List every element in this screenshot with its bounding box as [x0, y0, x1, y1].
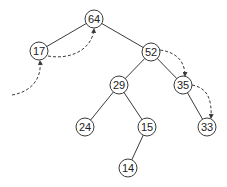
thread-arrow-entry-17 [12, 61, 40, 95]
node-52: 52 [142, 43, 160, 61]
thread-arrow-35-33 [192, 85, 211, 118]
node-label: 64 [88, 13, 100, 25]
node-label: 35 [177, 79, 189, 91]
node-17: 17 [30, 42, 48, 60]
node-24: 24 [76, 118, 94, 136]
node-64: 64 [85, 10, 103, 28]
node-14: 14 [119, 159, 137, 177]
node-33: 33 [198, 118, 216, 136]
node-label: 24 [79, 121, 91, 133]
node-15: 15 [138, 118, 156, 136]
tree-svg: 64 17 52 29 35 24 [0, 0, 227, 187]
node-label: 52 [145, 46, 157, 58]
node-label: 29 [113, 79, 125, 91]
thread-arrow-17-64 [48, 29, 94, 57]
node-label: 33 [201, 121, 213, 133]
edge-64-52 [94, 19, 151, 52]
node-label: 17 [33, 45, 45, 57]
tree-diagram: 64 17 52 29 35 24 [0, 0, 227, 187]
thread-arrow-52-35 [160, 50, 185, 76]
node-label: 15 [141, 121, 153, 133]
node-label: 14 [122, 162, 134, 174]
node-35: 35 [174, 76, 192, 94]
node-29: 29 [110, 76, 128, 94]
